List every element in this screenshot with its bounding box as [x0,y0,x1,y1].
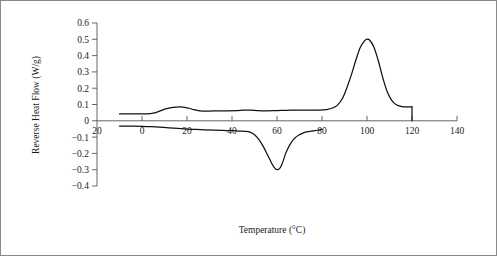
y-tick-label: −0.3 [72,165,89,175]
figure-frame: 0.60.50.40.30.20.10−0.1−0.2−0.3−0.4 2002… [0,0,497,256]
curve-lower-curve [120,126,323,170]
x-tick-label: 20 [92,126,102,136]
x-axis-title: Temperature (°C) [239,225,306,236]
y-tick-label: 0.5 [77,35,89,45]
y-tick-label: −0.2 [72,149,89,159]
y-axis-ticks: 0.60.50.40.30.20.10−0.1−0.2−0.3−0.4 [72,18,97,191]
y-axis-title: Reverse Heat Flow (W/g) [31,56,42,154]
data-curves [120,39,413,170]
x-tick-label: 60 [272,126,282,136]
y-tick-label: 0.6 [77,18,89,28]
curve-upper-curve [120,39,413,114]
y-tick-label: 0.4 [77,51,89,61]
y-tick-label: 0 [84,116,89,126]
x-tick-label: 120 [405,126,420,136]
x-tick-label: 140 [450,126,465,136]
x-axis-ticks: 20020406080100120140 [92,116,464,136]
x-tick-label: 0 [140,126,145,136]
axes: 0.60.50.40.30.20.10−0.1−0.2−0.3−0.4 2002… [72,18,465,191]
x-tick-label: 100 [360,126,375,136]
y-tick-label: 0.2 [77,84,89,94]
y-tick-label: 0.3 [77,67,89,77]
x-tick-label: 80 [317,126,327,136]
y-tick-label: −0.4 [72,181,89,191]
x-tick-label: 20 [182,126,192,136]
y-tick-label: 0.1 [77,100,89,110]
chart-canvas: 0.60.50.40.30.20.10−0.1−0.2−0.3−0.4 2002… [1,1,497,256]
y-tick-label: −0.1 [72,133,89,143]
